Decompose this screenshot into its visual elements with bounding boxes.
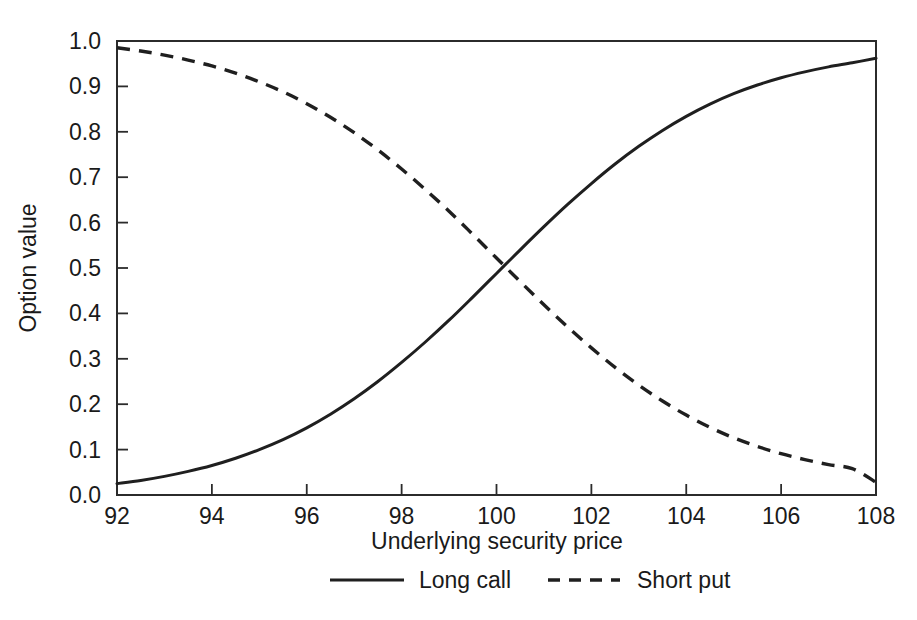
y-tick-label: 1.0 (69, 28, 101, 54)
x-tick-label: 108 (857, 503, 895, 529)
y-tick-label: 0.2 (69, 391, 101, 417)
x-tick-label: 96 (294, 503, 320, 529)
y-tick-label: 0.9 (69, 73, 101, 99)
y-tick-label: 0.8 (69, 119, 101, 145)
x-tick-label: 100 (477, 503, 515, 529)
legend-label-long-call: Long call (419, 567, 511, 593)
x-tick-label: 102 (572, 503, 610, 529)
x-tick-label: 92 (104, 503, 130, 529)
x-tick-label: 106 (762, 503, 800, 529)
x-tick-label: 94 (199, 503, 225, 529)
x-tick-label: 104 (667, 503, 706, 529)
y-tick-label: 0.4 (69, 300, 101, 326)
figure-page: 0.00.10.20.30.40.50.60.70.80.91.0 929496… (0, 0, 917, 620)
y-tick-label: 0.3 (69, 346, 101, 372)
x-axis-title: Underlying security price (371, 528, 623, 554)
y-tick-label: 0.6 (69, 210, 101, 236)
y-tick-label: 0.5 (69, 255, 101, 281)
y-axis-title: Option value (15, 203, 41, 332)
option-value-chart: 0.00.10.20.30.40.50.60.70.80.91.0 929496… (0, 0, 917, 620)
y-tick-label: 0.7 (69, 164, 101, 190)
y-tick-label: 0.0 (69, 482, 101, 508)
x-tick-label: 98 (389, 503, 415, 529)
y-tick-label: 0.1 (69, 437, 101, 463)
legend-label-short-put: Short put (637, 567, 731, 593)
